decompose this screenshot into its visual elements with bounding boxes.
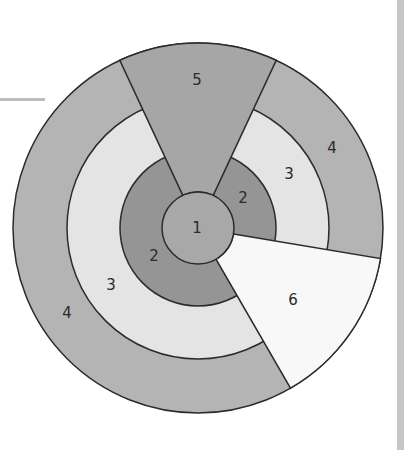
label-ring-4-left: 4 — [62, 304, 72, 322]
label-wedge-5: 5 — [192, 71, 202, 89]
label-wedge-6: 6 — [288, 291, 298, 309]
label-center-1: 1 — [192, 219, 202, 237]
label-ring-3-right: 3 — [284, 165, 294, 183]
label-ring-2-left: 2 — [149, 247, 159, 265]
label-ring-2-right: 2 — [238, 189, 248, 207]
ring-diagram: 1 2 2 3 3 4 4 5 6 — [0, 0, 408, 450]
label-ring-3-left: 3 — [106, 276, 116, 294]
label-ring-4-right: 4 — [327, 139, 337, 157]
